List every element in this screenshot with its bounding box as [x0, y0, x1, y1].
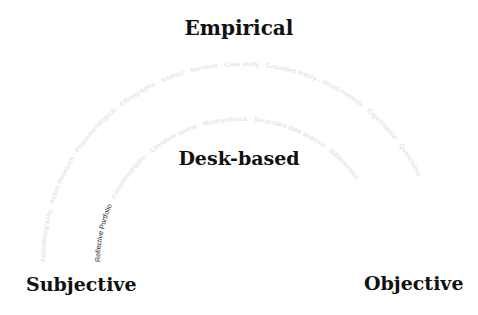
- inner-arc-label: · Metasynthesis: [196, 115, 248, 129]
- inner-arc-labels: Reflective Portfolio · Autoethnographic …: [94, 115, 361, 262]
- inner-arc-label: · Bibliometrics: [323, 143, 361, 181]
- outer-arc-labels: Autoethnography · Action Research · Phen…: [39, 60, 423, 262]
- inner-arc-label: Reflective Portfolio: [94, 203, 113, 262]
- arc-diagram: Autoethnography · Action Research · Phen…: [0, 0, 478, 315]
- inner-arc-label: · Literature review: [143, 122, 197, 157]
- inner-arc-label: · Secondary data analysis: [247, 115, 327, 149]
- inner-arc-label: · Autoethnographic: [107, 152, 149, 206]
